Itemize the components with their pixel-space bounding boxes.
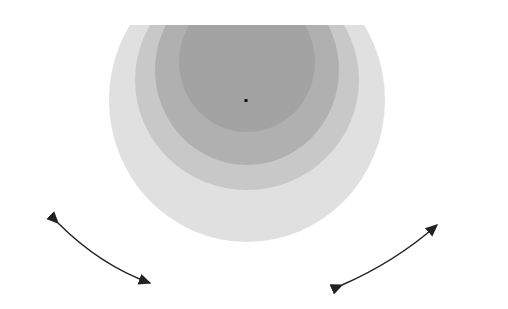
efficiency-zones [109,0,385,242]
center-point-marker [245,99,248,102]
orientation-diagram [0,0,508,309]
right-orientation-arrow [342,225,437,285]
left-orientation-arrow [58,223,150,283]
